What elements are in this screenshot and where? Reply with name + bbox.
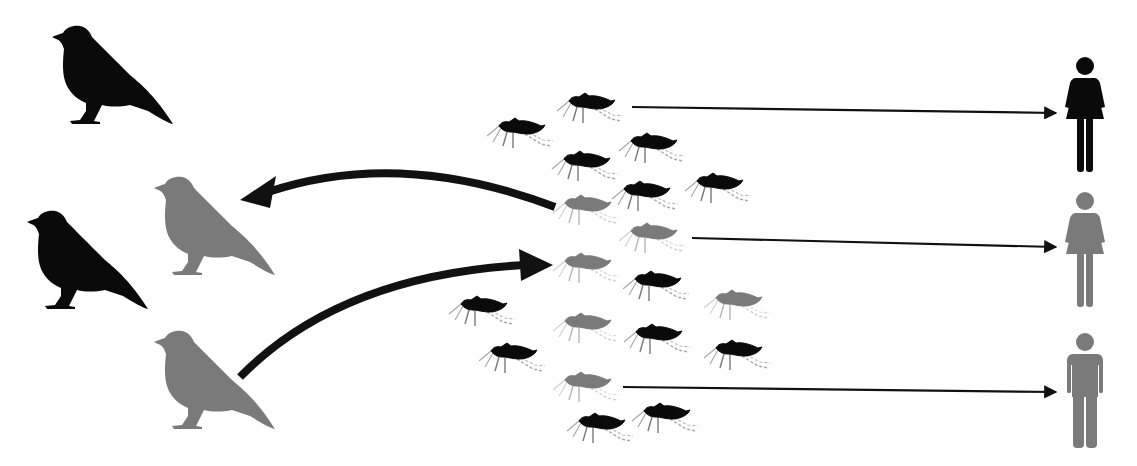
mosquito-icon [479, 343, 545, 373]
mosquito-icon [557, 93, 623, 123]
transmission-diagram: Mosquito-borne transmission between bird… [0, 0, 1137, 466]
mosquito-icon [632, 403, 698, 433]
bird-icon [27, 211, 148, 309]
arrowhead-icon [240, 176, 276, 208]
mosquito-icon [449, 296, 515, 326]
male-person-icon [1067, 333, 1103, 448]
female-person-icon [1065, 192, 1105, 307]
arrow-bird-to-mosquito [240, 265, 525, 377]
mosquito-icon [553, 253, 619, 283]
mosquito-icon [619, 223, 685, 253]
mosquito-icon [553, 372, 619, 402]
mosquito-icon [612, 181, 678, 211]
mosquito-icon [624, 324, 690, 354]
arrow-mosquito-to-human-2 [692, 238, 1056, 247]
mosquito-icon [552, 151, 618, 181]
arrow-mosquito-to-bird [268, 173, 555, 207]
mosquito-icon [487, 118, 553, 148]
arrowhead-icon [519, 249, 553, 281]
mosquito-icon [619, 133, 685, 163]
arrow-mosquito-to-human-1 [632, 107, 1056, 113]
mosquito-icon [567, 413, 633, 443]
mosquito-icon [685, 173, 751, 203]
bird-icon [52, 26, 173, 124]
diagram-canvas [0, 0, 1137, 466]
bird-icon [154, 331, 275, 429]
mosquito-icon [704, 340, 770, 370]
mosquito-icon [704, 290, 770, 320]
female-person-icon [1065, 57, 1105, 172]
mosquito-icon [553, 313, 619, 343]
mosquito-icon [623, 271, 689, 301]
mosquito-icon [553, 195, 619, 225]
arrow-mosquito-to-human-3 [623, 387, 1056, 392]
